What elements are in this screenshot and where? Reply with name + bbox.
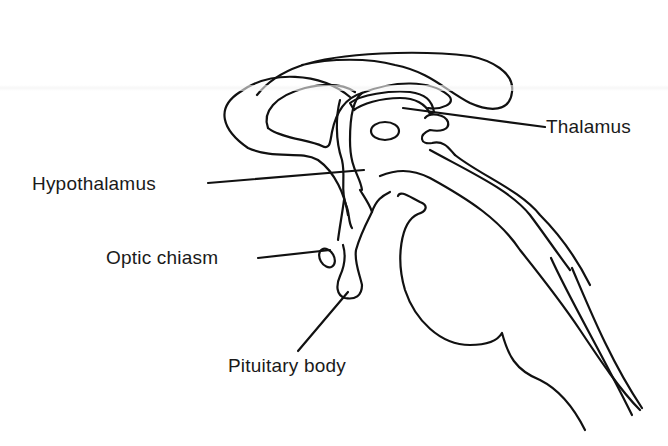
infundibulum-left bbox=[338, 200, 344, 240]
label-pituitary-body: Pituitary body bbox=[228, 355, 346, 377]
hypothalamus-stem bbox=[360, 190, 390, 212]
pons-outline bbox=[398, 194, 585, 430]
brain-illustration bbox=[0, 0, 668, 446]
third-ventricle-left bbox=[337, 100, 352, 228]
infundibulum-right bbox=[337, 212, 372, 298]
spinal-cord-2 bbox=[551, 258, 632, 415]
massa-intermedia bbox=[371, 122, 399, 140]
spinal-cord-1 bbox=[572, 268, 642, 408]
label-optic-chiasm: Optic chiasm bbox=[106, 247, 218, 269]
scan-artifact bbox=[0, 85, 668, 91]
corpus-callosum-outline bbox=[224, 77, 350, 215]
brainstem-back-2 bbox=[430, 150, 570, 270]
inner-loop bbox=[268, 93, 362, 147]
leader-pituitary bbox=[298, 292, 348, 351]
leader-hypothalamus bbox=[208, 170, 364, 183]
label-thalamus: Thalamus bbox=[546, 116, 631, 138]
diagram-canvas: Thalamus Hypothalamus Optic chiasm Pitui… bbox=[0, 0, 668, 446]
brainstem-front bbox=[380, 171, 640, 410]
label-hypothalamus: Hypothalamus bbox=[32, 173, 156, 195]
pineal-region bbox=[422, 115, 455, 155]
hemisphere-outer bbox=[257, 53, 512, 109]
